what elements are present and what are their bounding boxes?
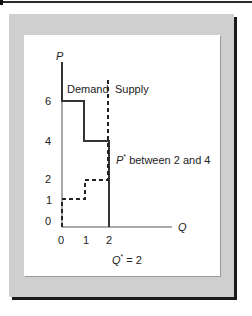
- p-star-text: between 2 and 4: [126, 154, 210, 166]
- y-tick-2: 2: [45, 174, 51, 185]
- q-star-text: = 2: [123, 254, 142, 266]
- x-axis-label: Q: [178, 222, 187, 233]
- y-tick-1: 1: [46, 195, 52, 206]
- y-axis-label: P: [56, 51, 63, 62]
- y-tick-6: 6: [45, 96, 51, 107]
- x-tick-1: 1: [83, 235, 89, 246]
- p-star-annotation: P* between 2 and 4: [116, 153, 210, 166]
- q-star-symbol: Q: [112, 254, 121, 266]
- q-star-annotation: Q* = 2: [112, 253, 142, 266]
- supply-label: Supply: [115, 84, 149, 95]
- y-tick-4: 4: [45, 136, 51, 147]
- demand-label: Demand: [67, 84, 109, 95]
- y-tick-0: 0: [45, 216, 51, 227]
- x-tick-0: 0: [58, 235, 64, 246]
- x-tick-2: 2: [106, 235, 112, 246]
